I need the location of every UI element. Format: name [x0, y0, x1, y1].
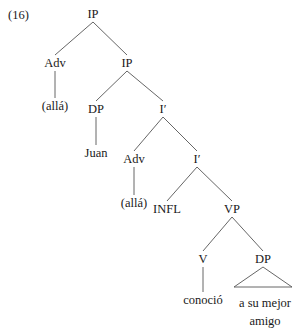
tree-node-vp: VP [224, 203, 240, 216]
branch-vp-to-v [203, 217, 232, 251]
branch-vp-to-dp-2 [232, 217, 263, 251]
figure-canvas: (16) IPAdvIP(allá)DPI′JuanAdvI′(allá)INF… [0, 0, 306, 330]
branch-ip-2-to-ibar-1 [127, 71, 163, 101]
tree-node-infl: INFL [153, 203, 181, 216]
tree-node-juan: Juan [85, 147, 108, 160]
tree-node-dp-1: DP [88, 103, 104, 116]
branch-ibar-1-to-ibar-2 [163, 117, 197, 151]
branch-ip-top-to-adv-1 [55, 22, 93, 55]
tree-node-ibar-1: I′ [160, 103, 167, 116]
branch-ip-top-to-ip-2 [93, 22, 127, 55]
tree-branches [0, 0, 306, 330]
tree-node-dp-2: DP [255, 253, 271, 266]
branch-ibar-2-to-vp [197, 167, 232, 201]
tree-node-ip-2: IP [121, 57, 132, 70]
tree-node-alla-1: (allá) [42, 100, 68, 113]
tree-node-ip-top: IP [87, 8, 98, 21]
constituent-triangle [234, 267, 292, 287]
tree-node-conocio: conoció [183, 294, 223, 307]
branch-ibar-2-to-infl [167, 167, 197, 201]
tree-node-ibar-2: I′ [194, 153, 201, 166]
tree-node-alla-2: (allá) [121, 197, 147, 210]
tree-node-adv-2: Adv [123, 153, 145, 166]
branch-ibar-1-to-adv-2 [134, 117, 163, 151]
tree-node-v: V [198, 253, 207, 266]
tree-node-adv-1: Adv [44, 57, 66, 70]
branch-ip-2-to-dp-1 [96, 71, 127, 101]
tree-node-amigo: a su mejor amigo [228, 294, 302, 330]
